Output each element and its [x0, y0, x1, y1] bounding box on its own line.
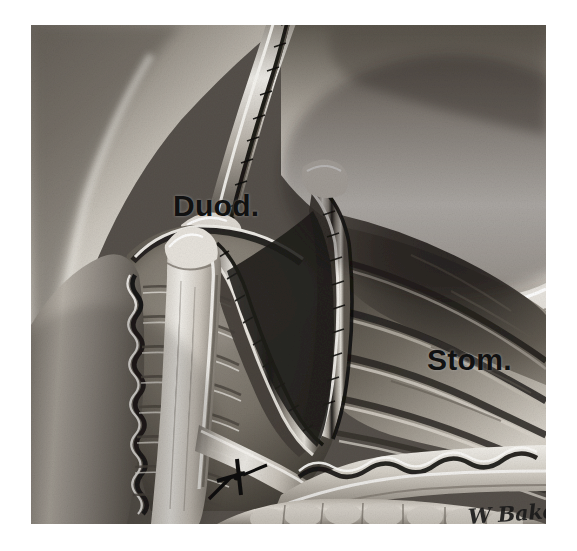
label-stomach: Stom. — [427, 345, 512, 375]
illustration-page: Duod. Stom. W Baker — [0, 0, 577, 551]
illustration-plate: Duod. Stom. W Baker — [31, 25, 546, 524]
label-duodenum: Duod. — [173, 191, 259, 221]
anatomy-artwork — [31, 25, 546, 524]
